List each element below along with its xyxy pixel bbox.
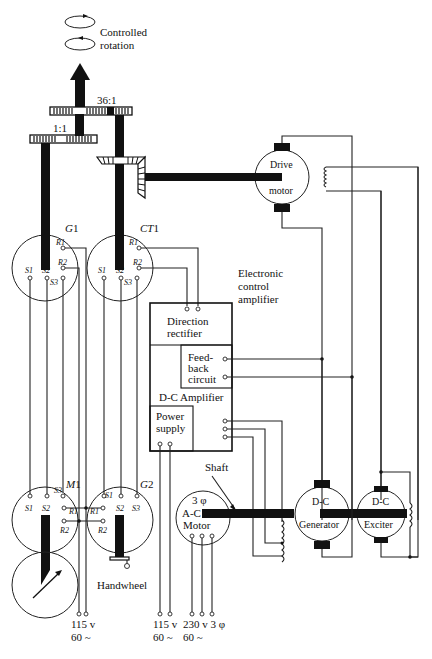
- svg-text:S3: S3: [54, 486, 62, 495]
- output-label-line1: Controlled: [100, 26, 148, 38]
- handwheel-icon: [110, 557, 130, 569]
- svg-text:S2: S2: [42, 504, 50, 513]
- servo-system-diagram: Controlled rotation 36:1: [0, 0, 432, 659]
- field-coil-icon: [324, 167, 326, 187]
- supply-2-freq: 60 ~: [153, 631, 173, 643]
- coarse-gear-ratio: 1:1: [53, 122, 67, 134]
- drive-motor-label-line1: Drive: [270, 159, 293, 170]
- g1-label: G1: [65, 222, 78, 234]
- svg-text:R1: R1: [128, 238, 138, 247]
- dc-exciter-label-line2: Exciter: [364, 519, 394, 530]
- field-coil-icon: [282, 520, 284, 562]
- svg-text:S2: S2: [42, 266, 50, 275]
- svg-text:R2: R2: [97, 526, 107, 535]
- direction-rectifier-line1: Direction: [167, 315, 209, 327]
- indicator-dial-icon: [12, 552, 78, 618]
- svg-text:S1: S1: [98, 266, 106, 275]
- handwheel-label: Handwheel: [97, 579, 147, 591]
- g2-label: G2: [140, 478, 153, 490]
- feedback-circuit-line3: circuit: [188, 373, 216, 385]
- synchro-g2: [87, 487, 153, 557]
- output-shaft-arrow: [70, 63, 90, 111]
- supply-2-voltage: 115 v: [153, 618, 178, 630]
- svg-text:R2: R2: [59, 526, 69, 535]
- main-shaft: [202, 509, 294, 518]
- dc-generator-label-line1: D-C: [312, 496, 330, 507]
- svg-text:S3: S3: [50, 278, 58, 287]
- supply-1-voltage: 115 v: [71, 618, 96, 630]
- svg-text:S1: S1: [105, 491, 113, 500]
- supply-1-freq: 60 ~: [71, 631, 91, 643]
- svg-text:S3: S3: [132, 504, 140, 513]
- dc-amplifier-label: D-C Amplifier: [159, 391, 224, 403]
- fine-gear-ratio: 36:1: [97, 94, 117, 106]
- supply-3-voltage: 230 v 3 φ: [183, 618, 225, 630]
- field-coil-icon: [410, 503, 412, 527]
- ac-motor-label-line2: Motor: [183, 519, 211, 531]
- output-label-line2: rotation: [100, 39, 135, 51]
- svg-text:S3: S3: [124, 278, 132, 287]
- coarse-gear-1-1: [30, 135, 97, 143]
- ac-motor-label-line1: A-C: [182, 507, 201, 519]
- direction-rectifier-line2: rectifier: [167, 327, 202, 339]
- power-supply-line2: supply: [156, 422, 186, 434]
- svg-text:S1: S1: [25, 266, 33, 275]
- amplifier-title-line3: amplifier: [238, 293, 279, 305]
- power-supply-line1: Power: [156, 410, 184, 422]
- ct1-label: CT1: [140, 222, 159, 234]
- rotation-arrows-icon: [65, 14, 95, 50]
- svg-text:S1: S1: [25, 504, 33, 513]
- amplifier-title-line1: Electronic: [238, 267, 283, 279]
- supply-3-freq: 60 ~: [183, 631, 203, 643]
- dc-generator-label-line2: Generator: [299, 519, 340, 530]
- svg-text:S2: S2: [116, 504, 124, 513]
- svg-text:R2: R2: [57, 258, 67, 267]
- dc-exciter-label-line1: D-C: [372, 496, 390, 507]
- drive-motor-label-line2: motor: [269, 185, 294, 196]
- shaft-label: Shaft: [205, 461, 228, 473]
- fine-gear-36-1: [50, 107, 132, 115]
- drive-motor-shaft: [145, 173, 255, 181]
- svg-text:R1: R1: [55, 238, 65, 247]
- output-shaft-lower: [75, 114, 84, 136]
- svg-text:S2: S2: [116, 266, 124, 275]
- m1-label: M1: [65, 478, 81, 490]
- supply-terminals: [77, 612, 214, 616]
- svg-text:R2: R2: [132, 258, 142, 267]
- amplifier-title-line2: control: [238, 280, 269, 292]
- ac-motor-phase: 3 φ: [192, 494, 207, 506]
